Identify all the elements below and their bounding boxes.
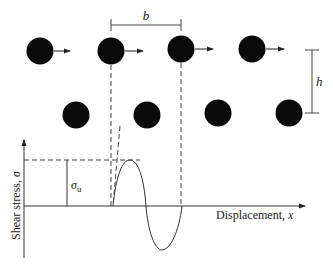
atom [27,38,54,65]
frenkel-shear-diagram: b h [0,0,333,269]
max-stress-label: σu [71,178,82,194]
atom [63,102,90,129]
spacing-b-dimension: b [111,8,181,31]
diagram-canvas: b h [0,0,333,269]
atom [98,38,125,65]
atom [205,100,232,127]
top-atom-row [27,36,285,65]
y-axis-label: Shear stress, σ [9,170,23,240]
atom [239,36,266,63]
spacing-b-label: b [143,8,150,23]
max-stress-indicator: σu [67,160,82,206]
x-axis-label: Displacement, x [216,208,294,222]
row-separation-h-label: h [316,74,323,89]
shear-stress-curve [113,160,182,250]
row-separation-h-dimension: h [305,50,323,113]
atom [168,36,195,63]
bottom-atom-row [63,100,303,129]
stress-axes [24,140,305,258]
dashed-guides [24,63,181,206]
atom [276,100,303,127]
atom [134,102,161,129]
